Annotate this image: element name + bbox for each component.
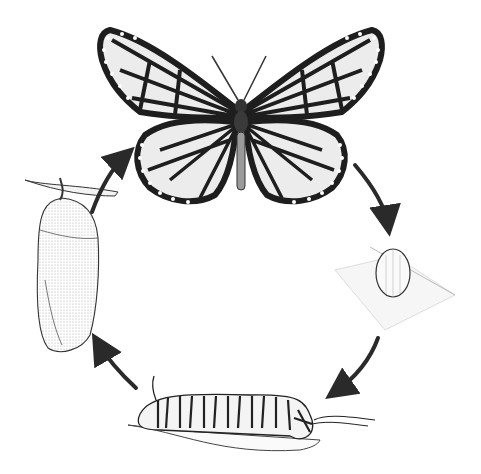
caterpillar <box>128 376 375 451</box>
chrysalis <box>25 178 118 352</box>
arrow-larva-to-pupa <box>98 343 136 388</box>
arrow-egg-to-larva <box>335 338 378 392</box>
arrow-pupa-to-adult <box>92 155 126 212</box>
arrow-adult-to-egg <box>355 165 388 225</box>
life-cycle-illustration <box>0 0 481 474</box>
butterfly-adult <box>100 30 382 204</box>
egg <box>335 247 455 330</box>
life-cycle-diagram: Monarch butterfly life cycle <box>0 0 481 474</box>
